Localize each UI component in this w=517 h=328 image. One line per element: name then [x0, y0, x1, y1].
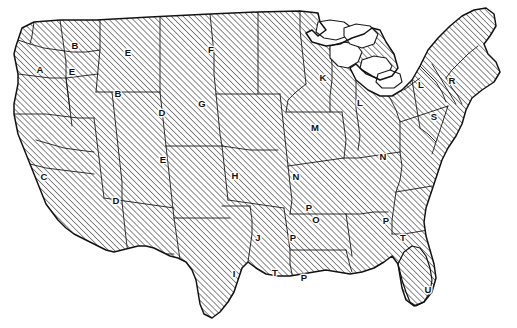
landmass-group [14, 8, 500, 318]
nation-hatch-fill [14, 8, 500, 318]
map-svg [0, 0, 517, 328]
us-regions-map: ABEEBFDGCEDHKLMLRSNNJPPOITPPTU [0, 0, 517, 328]
